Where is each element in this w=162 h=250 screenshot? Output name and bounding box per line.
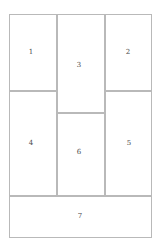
cell-label-6: 6 [77,149,81,156]
cell-label-7: 7 [78,213,82,220]
partition-diagram: 1234567 [0,0,162,250]
cell-label-3: 3 [77,62,81,69]
cell-label-2: 2 [126,49,130,56]
cell-label-1: 1 [29,49,33,56]
cell-label-5: 5 [127,140,131,147]
cell-label-4: 4 [29,140,33,147]
